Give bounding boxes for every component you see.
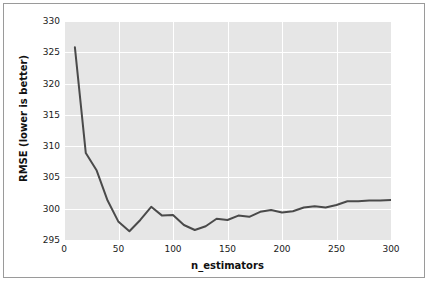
x-tick-label: 300 [371, 245, 411, 254]
x-tick-label: 50 [99, 245, 139, 254]
y-tick-label: 295 [8, 236, 60, 245]
y-tick-label: 325 [8, 48, 60, 57]
y-tick-label: 305 [8, 173, 60, 182]
y-tick-label: 320 [8, 80, 60, 89]
chart-figure: 295300305310315320325330 050100150200250… [3, 3, 425, 278]
x-tick-label: 250 [317, 245, 357, 254]
y-tick-label: 300 [8, 205, 60, 214]
x-tick-label: 200 [262, 245, 302, 254]
x-tick-label: 100 [153, 245, 193, 254]
y-axis-label: RMSE (lower is better) [18, 14, 29, 224]
x-tick-label: 0 [44, 245, 84, 254]
x-axis-ticks: 050100150200250300 [64, 245, 391, 259]
y-tick-label: 315 [8, 111, 60, 120]
y-tick-label: 330 [8, 17, 60, 26]
line-series-rmse [64, 21, 391, 240]
y-tick-label: 310 [8, 142, 60, 151]
plot-area [64, 21, 391, 240]
x-tick-label: 150 [208, 245, 248, 254]
y-axis-ticks: 295300305310315320325330 [4, 21, 60, 240]
series-polyline [75, 47, 391, 231]
x-axis-label: n_estimators [64, 260, 391, 271]
